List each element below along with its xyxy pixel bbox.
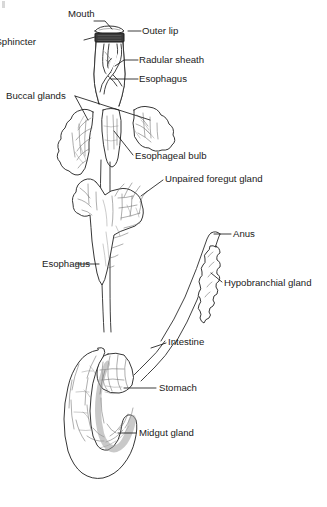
anatomical-figure: Mouth Outer lip Sphincter Radular sheath…	[0, 0, 327, 507]
label-mouth: Mouth	[68, 8, 95, 19]
leader-foregut-gland	[141, 180, 163, 196]
label-midgut-gland: Midgut gland	[139, 427, 194, 438]
label-buccal-glands: Buccal glands	[6, 90, 66, 101]
sphincter	[95, 33, 124, 42]
digestive-system-diagram: Mouth Outer lip Sphincter Radular sheath…	[0, 0, 327, 507]
label-anus: Anus	[233, 228, 255, 239]
leader-sphincter	[84, 37, 95, 40]
label-intestine: Intestine	[168, 336, 204, 347]
label-outer-lip: Outer lip	[142, 25, 178, 36]
label-radular-sheath: Radular sheath	[139, 54, 204, 65]
label-sphincter: Sphincter	[0, 36, 37, 47]
label-unpaired-foregut-gland: Unpaired foregut gland	[165, 173, 263, 184]
esophageal-bulb	[102, 109, 122, 168]
label-esophageal-bulb: Esophageal bulb	[135, 150, 206, 161]
buccal-gland-right	[133, 106, 175, 151]
label-esophagus-mid: Esophagus	[42, 258, 90, 269]
label-esophagus-top: Esophagus	[139, 73, 187, 84]
label-hypobranchial-gland: Hypobranchial gland	[224, 277, 311, 288]
label-stomach: Stomach	[159, 382, 197, 393]
hypobranchial-gland	[198, 246, 220, 323]
leader-intestine	[151, 343, 166, 348]
